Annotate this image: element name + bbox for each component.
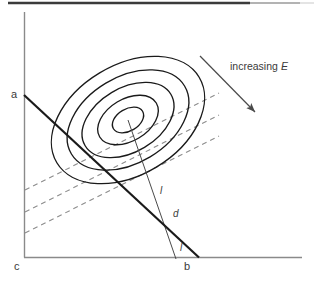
label-d: d [173,209,179,219]
dashed-line-2 [25,115,219,212]
gradient-line [128,120,176,259]
label-b: b [184,261,190,272]
label-l-lower: l [180,243,182,253]
energy-symbol: E [278,60,288,72]
increasing-word: increasing [230,60,278,72]
label-l-upper: l [160,186,162,196]
label-increasing-energy: increasingE [230,61,288,72]
label-c: c [14,261,20,272]
label-a: a [11,89,17,100]
contour-diagram [0,0,314,282]
dashed-line-1 [25,93,219,190]
dashed-isolines [25,93,219,233]
constraint-line-ab [24,95,199,258]
